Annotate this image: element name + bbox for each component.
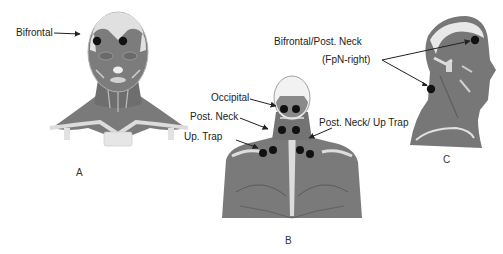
label-post-neck-up-trap: Post. Neck/ Up Trap xyxy=(319,118,408,128)
label-up-trap: Up. Trap xyxy=(184,132,222,142)
panel-a-figure xyxy=(50,12,188,146)
panel-c-figure xyxy=(410,16,496,148)
bifrontal-marker-left xyxy=(93,37,101,45)
caption-b: B xyxy=(285,236,292,246)
label-bifrontal: Bifrontal xyxy=(16,28,53,38)
label-fpn-right: (FpN-right) xyxy=(322,55,370,65)
label-post-neck: Post. Neck xyxy=(190,112,238,122)
caption-c: C xyxy=(443,155,450,165)
label-bifrontal-post-neck: Bifrontal/Post. Neck xyxy=(274,37,362,47)
label-occipital: Occipital xyxy=(211,93,249,103)
anatomy-diagram xyxy=(0,0,503,254)
caption-a: A xyxy=(76,168,83,178)
bifrontal-marker-right xyxy=(119,37,127,45)
